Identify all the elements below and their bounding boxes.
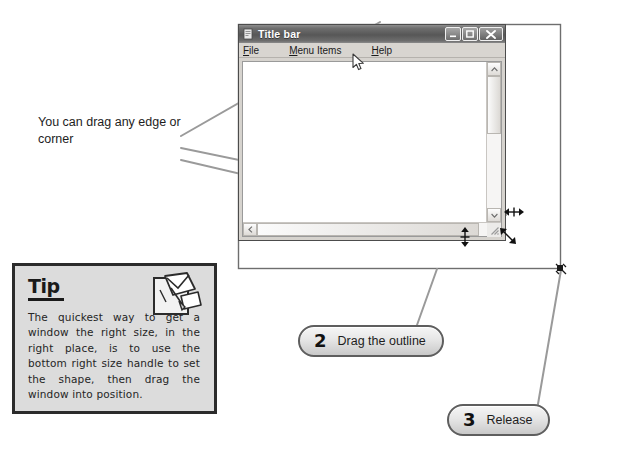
leader-step-3 bbox=[538, 270, 561, 404]
tip-body-text: The quickest way to get a window the rig… bbox=[28, 310, 200, 402]
vertical-scroll-track[interactable] bbox=[487, 134, 501, 208]
step-2-label: Drag the outline bbox=[338, 334, 426, 348]
resize-grip-icon[interactable] bbox=[487, 223, 501, 237]
figure-canvas: You can drag any edge or corner Title ba… bbox=[0, 0, 619, 471]
window-controls bbox=[445, 27, 503, 41]
horizontal-resize-cursor bbox=[503, 206, 525, 218]
client-area-frame bbox=[242, 61, 502, 237]
document-canvas[interactable] bbox=[243, 62, 486, 222]
scroll-up-arrow[interactable] bbox=[487, 62, 501, 76]
step-pill-3: 3 Release bbox=[447, 404, 550, 436]
menu-help[interactable]: Help bbox=[371, 45, 392, 56]
drag-edge-note: You can drag any edge or corner bbox=[38, 114, 188, 148]
menu-help-accel: H bbox=[371, 45, 378, 56]
leader-step-2 bbox=[417, 269, 437, 325]
application-window[interactable]: Title bar bbox=[238, 24, 506, 241]
menu-bar[interactable]: File Menu Items Help bbox=[239, 43, 505, 58]
note-papers-icon bbox=[151, 272, 203, 320]
maximize-icon[interactable] bbox=[462, 27, 478, 41]
minimize-icon[interactable] bbox=[445, 27, 461, 41]
step-2-number: 2 bbox=[314, 332, 327, 350]
menu-items-rest: enu Items bbox=[297, 45, 341, 56]
close-icon[interactable] bbox=[479, 27, 503, 41]
step-3-label: Release bbox=[487, 413, 533, 427]
window-title: Title bar bbox=[258, 28, 300, 40]
menu-file[interactable]: File bbox=[243, 45, 259, 56]
scroll-left-arrow[interactable] bbox=[243, 223, 257, 236]
scroll-down-arrow[interactable] bbox=[487, 208, 501, 222]
menu-help-rest: elp bbox=[379, 45, 392, 56]
step-pill-2: 2 Drag the outline bbox=[298, 325, 444, 357]
tip-heading-underline bbox=[28, 298, 64, 301]
outline-corner-handle[interactable] bbox=[556, 264, 566, 274]
vertical-scrollbar[interactable] bbox=[486, 62, 501, 222]
horizontal-scroll-track[interactable] bbox=[479, 223, 487, 236]
tip-inner: Tip The quickest way to get a window the… bbox=[28, 276, 201, 403]
menu-file-rest: ile bbox=[249, 45, 259, 56]
horizontal-scrollbar[interactable] bbox=[243, 222, 501, 236]
client-row bbox=[243, 62, 501, 222]
title-bar[interactable]: Title bar bbox=[239, 25, 505, 43]
window-doc-icon bbox=[242, 28, 254, 40]
vertical-scroll-thumb[interactable] bbox=[487, 76, 501, 134]
menu-items[interactable]: Menu Items bbox=[289, 45, 341, 56]
step-3-number: 3 bbox=[463, 411, 476, 429]
horizontal-scroll-thumb[interactable] bbox=[257, 223, 479, 236]
tip-box: Tip The quickest way to get a window the… bbox=[12, 263, 217, 414]
